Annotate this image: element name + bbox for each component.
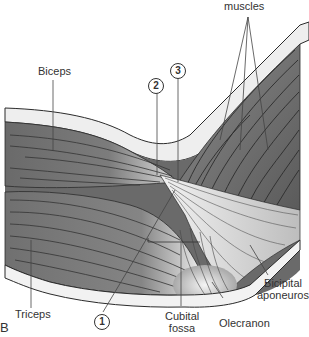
label-muscles: muscles: [224, 0, 264, 12]
label-olecranon: Olecranon: [219, 317, 270, 329]
label-cubital-fossa-line1: Cubital: [165, 310, 199, 322]
panel-letter: B: [0, 320, 9, 335]
label-cubital-fossa: Cubital fossa: [165, 310, 199, 334]
callout-3: 3: [170, 63, 186, 79]
label-triceps: Triceps: [15, 308, 51, 320]
callout-2: 2: [148, 78, 164, 94]
label-bicipital-aponeurosis-line1: Bicipital: [257, 277, 309, 289]
label-cubital-fossa-line2: fossa: [165, 322, 199, 334]
label-bicipital-aponeurosis: Bicipital aponeurosis: [257, 277, 309, 301]
elbow-anatomy-figure: muscles Biceps 2 3 Triceps B 1 Cubital f…: [0, 0, 309, 337]
label-bicipital-aponeurosis-line2: aponeurosis: [257, 289, 309, 301]
label-biceps: Biceps: [38, 65, 71, 77]
callout-1: 1: [94, 314, 110, 330]
